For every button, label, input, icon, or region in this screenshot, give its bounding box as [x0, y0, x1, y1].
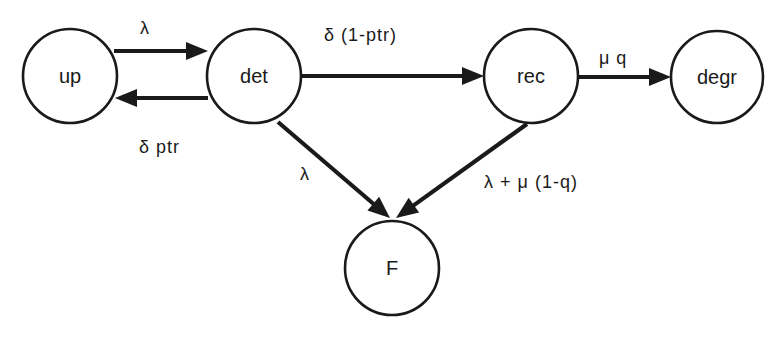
node-label-F: F [386, 257, 398, 279]
node-det: det [207, 29, 301, 123]
edge-det-rec [301, 67, 484, 85]
arrowhead-icon [396, 198, 419, 218]
edge-label-det-rec: δ (1-ptr) [324, 25, 397, 45]
node-label-det: det [240, 65, 268, 87]
edges-layer [114, 42, 671, 218]
arrowhead-icon [186, 42, 208, 60]
arrowhead-icon [462, 67, 484, 85]
edge-up-det [114, 42, 208, 60]
state-transition-diagram: updetrecdegrF λδ ptrδ (1-ptr)μ qλλ + μ (… [0, 0, 782, 340]
edge-label-det-up: δ ptr [139, 137, 180, 157]
node-label-rec: rec [517, 65, 545, 87]
arrowhead-icon [115, 89, 137, 107]
node-F: F [345, 221, 439, 315]
edge-label-rec-F: λ + μ (1-q) [484, 172, 578, 192]
node-rec: rec [484, 29, 578, 123]
edge-line [412, 124, 527, 206]
edge-det-up [115, 89, 208, 107]
edge-label-up-det: λ [140, 18, 150, 38]
edge-label-det-F: λ [300, 164, 310, 184]
edge-label-rec-degr: μ q [599, 48, 627, 68]
node-label-degr: degr [697, 66, 737, 88]
edge-rec-degr [578, 68, 671, 86]
node-degr: degr [671, 31, 763, 123]
edge-line [278, 122, 375, 205]
edge-det-F [278, 122, 390, 218]
node-up: up [23, 29, 117, 123]
node-label-up: up [59, 65, 81, 87]
edge-rec-F [396, 124, 527, 218]
arrowhead-icon [649, 68, 671, 86]
